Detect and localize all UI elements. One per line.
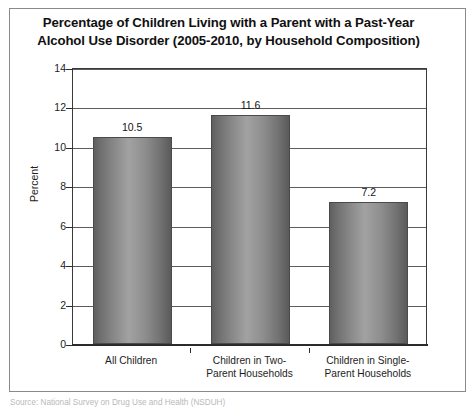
x-axis-tick-label-line: Children in Single- (308, 355, 428, 368)
x-axis-tick-label: All Children (71, 355, 191, 368)
y-axis-tick-label: 0 (60, 338, 66, 350)
bar-value-label: 10.5 (122, 121, 142, 133)
y-axis-tick (66, 187, 73, 188)
y-axis-tick (66, 306, 73, 307)
gridline (73, 69, 426, 70)
x-axis-tick-label-line: Parent Households (190, 368, 310, 381)
bar-value-label: 11.6 (241, 99, 261, 111)
bar (93, 137, 172, 344)
y-axis-tick-label: 6 (60, 220, 66, 232)
y-axis-title: Percent (28, 144, 40, 224)
y-axis-tick-label: 10 (54, 141, 66, 153)
source-note: Source: National Survey on Drug Use and … (10, 398, 470, 407)
y-axis-tick-label: 2 (60, 299, 66, 311)
bar (329, 202, 408, 344)
y-axis-tick-label: 8 (60, 180, 66, 192)
bar (211, 115, 290, 344)
chart-plot-wrapper: Percent 02468101214 10.511.67.2 All Chil… (0, 0, 457, 384)
y-axis-tick (66, 69, 73, 70)
y-axis-tick (66, 227, 73, 228)
x-axis-tick-label: Children in Single-Parent Households (308, 355, 428, 380)
y-axis-tick-labels: 02468101214 (40, 68, 66, 344)
x-axis-tick (309, 348, 310, 353)
y-axis-tick-label: 12 (54, 101, 66, 113)
y-axis-tick (66, 266, 73, 267)
y-axis-tick (66, 108, 73, 109)
y-axis-tick-label: 14 (54, 62, 66, 74)
x-axis-tick-labels: All ChildrenChildren in Two-Parent House… (72, 348, 428, 382)
y-axis-tick-label: 4 (60, 259, 66, 271)
bar-value-label: 7.2 (362, 186, 377, 198)
plot-area: 10.511.67.2 (72, 68, 427, 344)
x-axis-tick-label-line: All Children (71, 355, 191, 368)
x-axis-tick-label-line: Children in Two- (190, 355, 310, 368)
y-axis-tick (66, 148, 73, 149)
x-axis-line (72, 344, 428, 346)
x-axis-tick (190, 348, 191, 353)
x-axis-tick-label-line: Parent Households (308, 368, 428, 381)
x-axis-tick-label: Children in Two-Parent Households (190, 355, 310, 380)
